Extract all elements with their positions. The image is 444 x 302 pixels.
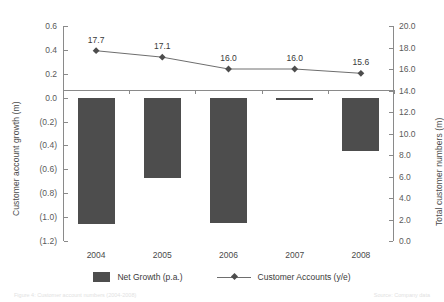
y-axis-right-tick (389, 241, 393, 242)
data-point-label: 17.7 (88, 35, 105, 45)
line-swatch-icon (217, 273, 251, 282)
legend-label-net-growth: Net Growth (p.a.) (117, 272, 182, 282)
chart-container: Customer account growth (m) Total custom… (0, 0, 444, 302)
legend-label-customer-accounts: Customer Accounts (y/e) (258, 272, 351, 282)
y-axis-right-tick-label: 2.0 (399, 216, 439, 225)
y-axis-left-tick-label: (1.0) (17, 213, 57, 222)
y-axis-left-tick-label: 0.6 (17, 22, 57, 31)
y-axis-left-tick-label: 0.0 (17, 94, 57, 103)
data-point-label: 15.6 (353, 57, 370, 67)
bar-swatch-icon (93, 272, 110, 282)
legend-item-customer-accounts[interactable]: Customer Accounts (y/e) (217, 272, 351, 282)
legend-item-net-growth[interactable]: Net Growth (p.a.) (93, 272, 182, 282)
y-axis-left-tick-label: (0.4) (17, 141, 57, 150)
y-axis-left-tick-label: 0.2 (17, 70, 57, 79)
y-axis-right-tick-label: 8.0 (399, 151, 439, 160)
x-axis-category-label: 2006 (219, 250, 238, 260)
y-axis-left-tick-label: 0.4 (17, 46, 57, 55)
chart-caption: Figure 4: Customer account numbers (2004… (14, 292, 430, 298)
y-axis-right-tick-label: 10.0 (399, 130, 439, 139)
y-axis-right-tick-label: 4.0 (399, 194, 439, 203)
line-marker[interactable] (93, 47, 100, 54)
caption-left: Figure 4: Customer account numbers (2004… (14, 292, 136, 298)
y-axis-left-tick-label: (0.6) (17, 165, 57, 174)
data-point-label: 16.0 (286, 53, 303, 63)
y-axis-right-tick-label: 20.0 (399, 22, 439, 31)
x-axis-category-label: 2008 (351, 250, 370, 260)
x-axis-category-label: 2007 (285, 250, 304, 260)
x-axis-tick (394, 90, 395, 94)
y-axis-right-tick-label: 0.0 (399, 237, 439, 246)
line-marker[interactable] (159, 54, 166, 61)
y-axis-left-tick (64, 241, 68, 242)
y-axis-right-tick-label: 16.0 (399, 65, 439, 74)
caption-right: Source: Company data (374, 292, 430, 298)
chart-legend: Net Growth (p.a.) Customer Accounts (y/e… (0, 272, 444, 282)
y-axis-right-tick-label: 14.0 (399, 87, 439, 96)
x-axis-category-label: 2005 (153, 250, 172, 260)
y-axis-left-tick-label: (0.8) (17, 189, 57, 198)
y-axis-left-tick-labels: 0.60.40.20.0(0.2)(0.4)(0.6)(0.8)(1.0)(1.… (17, 0, 57, 302)
y-axis-right-tick-label: 6.0 (399, 173, 439, 182)
data-point-label: 17.1 (154, 41, 171, 51)
data-point-label: 16.0 (220, 53, 237, 63)
y-axis-right-tick-label: 18.0 (399, 44, 439, 53)
line-marker[interactable] (225, 66, 232, 73)
y-axis-left-tick-label: (0.2) (17, 118, 57, 127)
y-axis-left-tick-label: (1.2) (17, 237, 57, 246)
line-marker[interactable] (358, 70, 365, 77)
line-marker[interactable] (291, 66, 298, 73)
y-axis-right-tick-labels: 20.018.016.014.012.010.08.06.04.02.00.0 (399, 0, 439, 302)
y-axis-right-tick-label: 12.0 (399, 108, 439, 117)
x-axis-category-label: 2004 (87, 250, 106, 260)
